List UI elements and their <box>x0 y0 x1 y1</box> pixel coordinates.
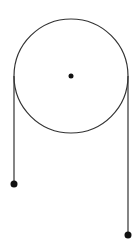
right-mass-dot <box>125 232 132 239</box>
pulley-axle <box>69 74 74 79</box>
pulley-diagram <box>0 0 138 248</box>
left-mass-dot <box>11 181 18 188</box>
